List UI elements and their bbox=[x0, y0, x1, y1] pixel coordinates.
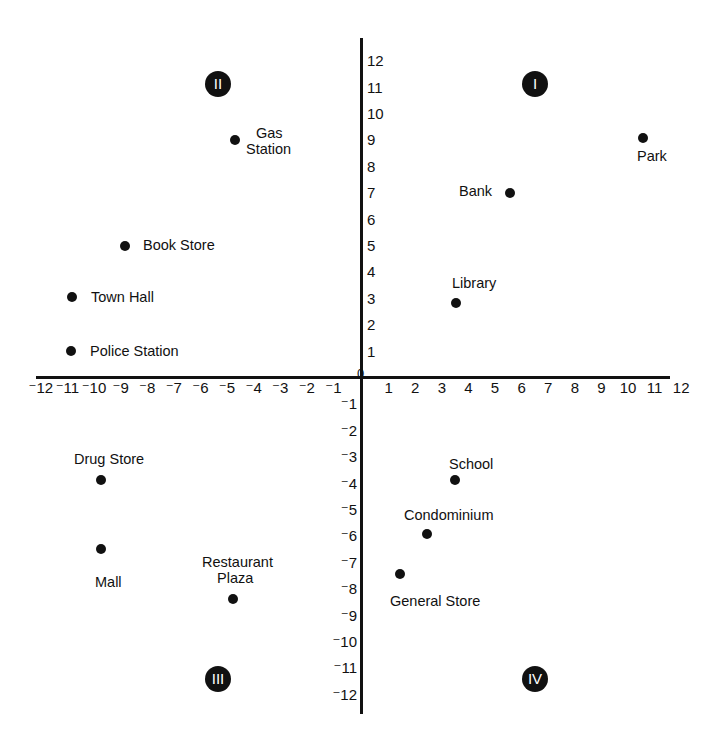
x-tick-label: 7 bbox=[544, 380, 552, 395]
label-school: School bbox=[449, 456, 493, 472]
y-tick-label: 3 bbox=[367, 290, 375, 305]
point-police-station bbox=[66, 346, 76, 356]
point-town-hall bbox=[67, 292, 77, 302]
coordinate-plane: 0 ⁻12⁻11⁻10⁻9⁻8⁻7⁻6⁻5⁻4⁻3⁻2⁻112345678910… bbox=[0, 0, 715, 749]
y-tick-label: ⁻9 bbox=[341, 607, 357, 622]
y-tick-label: 2 bbox=[367, 317, 375, 332]
y-tick-label: 1 bbox=[367, 343, 375, 358]
y-tick-label: 10 bbox=[367, 106, 384, 121]
y-tick-label: ⁻5 bbox=[341, 502, 357, 517]
x-tick-label: 9 bbox=[597, 380, 605, 395]
y-tick-label: 4 bbox=[367, 264, 375, 279]
x-tick-label: ⁻5 bbox=[219, 380, 235, 395]
y-tick-label: ⁻8 bbox=[341, 581, 357, 596]
x-tick-label: 2 bbox=[411, 380, 419, 395]
label-general-store: General Store bbox=[390, 593, 480, 609]
x-tick-label: ⁻8 bbox=[139, 380, 155, 395]
y-tick-label: ⁻2 bbox=[341, 422, 357, 437]
x-tick-label: 6 bbox=[517, 380, 525, 395]
label-drug-store: Drug Store bbox=[74, 451, 144, 467]
point-school bbox=[450, 475, 460, 485]
y-tick-label: ⁻12 bbox=[332, 686, 357, 701]
x-tick-label: ⁻1 bbox=[325, 380, 341, 395]
point-book-store bbox=[120, 241, 130, 251]
point-general-store bbox=[395, 569, 405, 579]
label-library: Library bbox=[452, 275, 496, 291]
x-tick-label: ⁻7 bbox=[166, 380, 182, 395]
x-tick-label: ⁻10 bbox=[82, 380, 107, 395]
y-tick-label: 7 bbox=[367, 185, 375, 200]
label-condominium: Condominium bbox=[404, 507, 493, 523]
y-tick-label: ⁻7 bbox=[341, 554, 357, 569]
y-tick-label: ⁻11 bbox=[334, 660, 358, 675]
x-tick-label: 11 bbox=[647, 380, 663, 395]
y-tick-label: 12 bbox=[367, 53, 384, 68]
label-police-station: Police Station bbox=[90, 343, 179, 359]
point-restaurant-plaza bbox=[228, 594, 238, 604]
label-mall: Mall bbox=[95, 574, 122, 590]
y-tick-label: 6 bbox=[367, 211, 375, 226]
x-tick-label: 12 bbox=[673, 380, 690, 395]
x-tick-label: ⁻2 bbox=[299, 380, 315, 395]
label-town-hall: Town Hall bbox=[91, 289, 154, 305]
label-restaurant-line2: Plaza bbox=[217, 570, 253, 586]
point-bank bbox=[505, 188, 515, 198]
y-tick-label: 9 bbox=[367, 132, 375, 147]
point-library bbox=[451, 298, 461, 308]
origin-label: 0 bbox=[357, 366, 364, 381]
point-drug-store bbox=[96, 475, 106, 485]
x-tick-label: ⁻12 bbox=[28, 380, 53, 395]
x-tick-label: ⁻11 bbox=[56, 380, 80, 395]
label-bank: Bank bbox=[459, 183, 492, 199]
point-mall bbox=[96, 544, 106, 554]
y-tick-label: ⁻10 bbox=[332, 634, 357, 649]
x-tick-label: 8 bbox=[571, 380, 579, 395]
y-tick-label: 11 bbox=[367, 79, 383, 94]
label-restaurant-line1: Restaurant bbox=[202, 554, 273, 570]
x-tick-label: ⁻4 bbox=[245, 380, 261, 395]
quadrant-IV-marker: IV bbox=[522, 666, 548, 692]
x-tick-label: 3 bbox=[438, 380, 446, 395]
label-gas-station-line1: Gas bbox=[256, 125, 283, 141]
y-tick-label: ⁻4 bbox=[341, 475, 357, 490]
x-tick-label: ⁻9 bbox=[112, 380, 128, 395]
x-tick-label: 4 bbox=[464, 380, 472, 395]
y-tick-label: ⁻6 bbox=[341, 528, 357, 543]
x-tick-label: 5 bbox=[491, 380, 499, 395]
y-tick-label: ⁻1 bbox=[341, 396, 357, 411]
x-tick-label: 1 bbox=[384, 380, 392, 395]
y-tick-label: 5 bbox=[367, 238, 375, 253]
point-condominium bbox=[422, 529, 432, 539]
label-park: Park bbox=[637, 148, 667, 164]
y-tick-label: 8 bbox=[367, 158, 375, 173]
quadrant-II-marker: II bbox=[205, 71, 231, 97]
x-tick-label: ⁻3 bbox=[272, 380, 288, 395]
quadrant-I-marker: I bbox=[522, 71, 548, 97]
label-gas-station-line2: Station bbox=[246, 141, 291, 157]
x-tick-label: ⁻6 bbox=[192, 380, 208, 395]
label-book-store: Book Store bbox=[143, 237, 215, 253]
quadrant-III-marker: III bbox=[205, 666, 231, 692]
point-park bbox=[638, 133, 648, 143]
x-tick-label: 10 bbox=[620, 380, 637, 395]
y-tick-label: ⁻3 bbox=[341, 449, 357, 464]
point-gas-station bbox=[230, 135, 240, 145]
